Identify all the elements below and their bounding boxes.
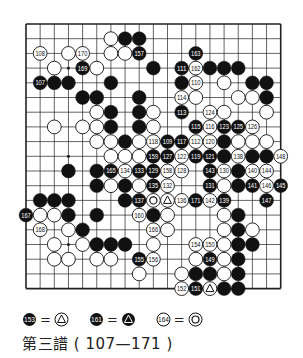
black-stone — [90, 179, 104, 193]
move-number-label: 126 — [248, 123, 258, 130]
move-number-label: 118 — [149, 138, 159, 145]
black-stone — [231, 164, 245, 178]
move-number-label: 163 — [191, 50, 201, 57]
black-stone — [231, 238, 245, 252]
white-stone — [217, 179, 231, 193]
black-stone — [62, 194, 76, 208]
move-number-label: 125 — [234, 123, 244, 130]
white-stone — [132, 179, 146, 193]
white-stone — [62, 223, 76, 237]
black-stone — [231, 61, 245, 75]
black-stone — [146, 61, 160, 75]
white-stone — [104, 47, 118, 61]
move-number-label: 129 — [149, 167, 159, 174]
move-number-label: 138 — [234, 153, 244, 160]
move-number-label: 143 — [205, 167, 215, 174]
move-number-label: 110 — [191, 79, 201, 86]
black-stone — [260, 91, 274, 105]
move-number-label: 167 — [21, 212, 31, 219]
go-board: 1081701571631691111621071101141131241151… — [0, 0, 303, 300]
white-stone — [104, 32, 118, 46]
black-stone — [231, 252, 245, 266]
move-number-label: 154 — [191, 241, 201, 248]
black-stone — [118, 32, 132, 46]
black-stone — [104, 105, 118, 119]
move-number-label: 150 — [205, 241, 215, 248]
black-stone — [231, 179, 245, 193]
black-stone — [203, 61, 217, 75]
white-stone — [217, 252, 231, 266]
white-stone — [47, 61, 61, 75]
white-stone — [146, 238, 160, 252]
black-stone — [118, 238, 132, 252]
white-stone — [161, 223, 175, 237]
white-stone — [217, 223, 231, 237]
black-stone — [246, 149, 260, 163]
white-stone — [246, 223, 260, 237]
white-stone — [217, 238, 231, 252]
black-stone — [132, 91, 146, 105]
legend-equals: = — [40, 312, 51, 327]
white-stone — [260, 135, 274, 149]
move-number-label: 133 — [134, 167, 144, 174]
white-stone — [62, 47, 76, 61]
white-stone — [118, 149, 132, 163]
black-stone — [246, 238, 260, 252]
white-stone — [47, 208, 61, 222]
move-number-label: 151 — [191, 285, 201, 292]
move-number-label: 159 — [149, 153, 159, 160]
move-number-label: 144 — [262, 167, 272, 174]
star-point — [67, 155, 70, 158]
white-stone — [132, 267, 146, 281]
move-number-label: 124 — [205, 109, 215, 116]
move-number-label: 165 — [106, 167, 116, 174]
black-stone — [90, 164, 104, 178]
move-number-label: 128 — [177, 167, 187, 174]
white-stone — [217, 267, 231, 281]
move-number-label: 113 — [177, 109, 187, 116]
legend-item-153: 153 = — [22, 312, 69, 327]
black-stone — [260, 149, 274, 163]
double-circle-stone-icon — [188, 312, 203, 327]
white-stone — [146, 120, 160, 134]
black-stone — [104, 238, 118, 252]
black-stone — [132, 120, 146, 134]
move-number-label: 135 — [149, 182, 159, 189]
black-stone — [118, 194, 132, 208]
black-stone — [104, 120, 118, 134]
move-number-label: 148 — [276, 153, 286, 160]
move-number-label: 166 — [149, 226, 159, 233]
white-stone — [90, 252, 104, 266]
black-stone — [132, 32, 146, 46]
move-number-label: 157 — [134, 50, 144, 57]
white-stone — [90, 135, 104, 149]
black-stone — [246, 76, 260, 90]
move-number-label: 140 — [248, 167, 258, 174]
svg-text:161: 161 — [91, 316, 102, 323]
black-stone — [33, 194, 47, 208]
move-number-label: 146 — [262, 182, 272, 189]
svg-text:153: 153 — [24, 316, 35, 323]
white-stone — [90, 61, 104, 75]
black-stone — [62, 208, 76, 222]
black-stone — [217, 149, 231, 163]
white-stone — [47, 120, 61, 134]
black-stone — [76, 223, 90, 237]
black-stone — [231, 282, 245, 296]
move-number-label: 130 — [219, 167, 229, 174]
move-number-label: 158 — [163, 167, 173, 174]
black-stone — [62, 164, 76, 178]
white-stone — [132, 149, 146, 163]
white-stone — [76, 120, 90, 134]
black-stone — [62, 76, 76, 90]
move-number-label: 160 — [134, 212, 144, 219]
white-stone — [161, 208, 175, 222]
move-number-label: 131 — [205, 182, 215, 189]
white-stone — [175, 267, 189, 281]
black-stone — [217, 61, 231, 75]
star-point — [67, 67, 70, 70]
move-number-label: 141 — [248, 182, 258, 189]
white-stone — [104, 252, 118, 266]
black-stone — [118, 135, 132, 149]
legend-equals: = — [107, 312, 118, 327]
